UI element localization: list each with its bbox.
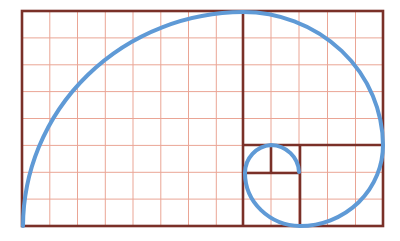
background <box>0 0 400 241</box>
golden-spiral-diagram <box>0 0 400 241</box>
